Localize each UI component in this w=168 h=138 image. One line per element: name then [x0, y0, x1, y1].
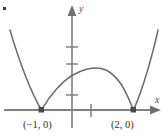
coordinate-plot — [0, 0, 168, 138]
y-axis-arrow-icon — [68, 5, 77, 16]
root-point-left-marker — [39, 107, 45, 113]
quartic-curve — [10, 30, 158, 110]
root-label-right: (2, 0) — [111, 120, 134, 131]
root-point-right-marker — [131, 107, 137, 113]
root-label-left: (−1, 0) — [23, 120, 52, 131]
x-axis-label: x — [155, 95, 159, 105]
graph-figure: y x (−1, 0) (2, 0) — [0, 0, 168, 138]
x-axis-arrow-icon — [150, 106, 161, 115]
y-axis-label: y — [79, 4, 83, 14]
